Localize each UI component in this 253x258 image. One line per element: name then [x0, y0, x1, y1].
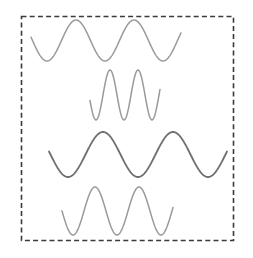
- sine-wave-4: [62, 187, 173, 235]
- wave-diagram: [0, 0, 253, 258]
- sine-wave-1: [31, 20, 181, 61]
- sine-wave-3: [49, 132, 227, 177]
- sine-wave-2: [90, 70, 160, 120]
- dashed-frame: [22, 17, 234, 241]
